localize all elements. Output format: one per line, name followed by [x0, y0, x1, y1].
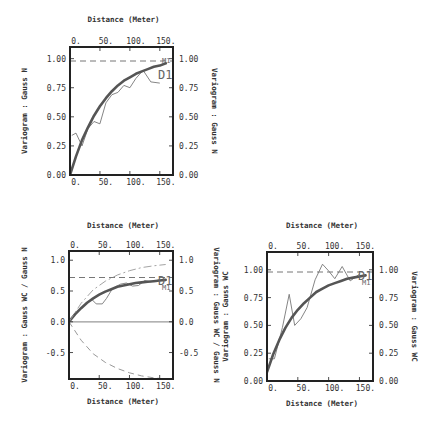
x-tick-label-top: 50. [297, 242, 311, 251]
series-model-m1 [69, 280, 166, 322]
x-axis-title-top: Distance (Meter) [286, 221, 358, 230]
x-axis-title-top: Distance (Meter) [87, 15, 159, 24]
series-model-m1 [267, 275, 366, 372]
x-axis-title-top: Distance (Meter) [87, 221, 159, 230]
y-tick-label-right: 1.0 [179, 256, 194, 265]
x-tick-label-bottom: 0. [70, 382, 80, 391]
x-tick-label-bottom: 50. [98, 382, 112, 391]
chart-panel-gauss-n: 0.0.50.50.100.100.150.150.0.000.000.250.… [20, 15, 219, 187]
x-tick-label-bottom: 150. [156, 382, 175, 391]
x-tick-label-top: 150. [156, 241, 175, 250]
y-tick-label-left: 0.00 [47, 171, 66, 180]
x-tick-label-top: 100. [325, 242, 344, 251]
chart-panel-gauss-wc-n: 0.0.50.50.100.100.150.150.-0.5-0.50.00.0… [20, 221, 221, 406]
label-m1: M1 [162, 57, 170, 65]
chart-panel-gauss-wc: 0.0.50.50.100.100.150.150.0.000.000.250.… [221, 221, 419, 408]
x-tick-label-bottom: 50. [297, 384, 311, 393]
y-tick-label-left: 0.25 [244, 349, 263, 358]
x-tick-label-top: 100. [126, 37, 145, 46]
y-tick-label-right: 0.25 [179, 142, 198, 151]
x-tick-label-bottom: 150. [156, 178, 175, 187]
y-tick-label-right: 0.75 [379, 294, 398, 303]
y-tick-label-right: 0.00 [179, 171, 198, 180]
x-tick-label-bottom: 50. [99, 178, 113, 187]
y-tick-label-right: 0.25 [379, 349, 398, 358]
label-m1: M1 [362, 279, 370, 287]
x-axis-title-bottom: Distance (Meter) [286, 399, 358, 408]
y-tick-label-left: 0.50 [244, 321, 263, 330]
y-axis-title-right: Variogram : Gauss N [210, 68, 219, 154]
x-tick-label-top: 50. [99, 37, 113, 46]
y-tick-label-left: 0.50 [47, 113, 66, 122]
x-tick-label-top: 50. [98, 241, 112, 250]
y-tick-label-right: 1.00 [179, 55, 198, 64]
y-tick-label-right: 0.0 [179, 318, 194, 327]
series-lower-envelope [69, 322, 166, 379]
y-tick-label-left: 0.0 [51, 318, 66, 327]
variogram-charts: 0.0.50.50.100.100.150.150.0.000.000.250.… [0, 0, 438, 428]
y-tick-label-left: 1.00 [47, 55, 66, 64]
y-tick-label-left: 0.5 [51, 287, 66, 296]
x-tick-label-bottom: 0. [268, 384, 278, 393]
plot-frame [69, 251, 173, 379]
x-tick-label-top: 150. [356, 242, 375, 251]
y-tick-label-right: -0.5 [179, 349, 198, 358]
x-tick-label-top: 100. [126, 241, 145, 250]
y-tick-label-right: 0.00 [379, 377, 398, 386]
y-tick-label-right: 0.50 [179, 113, 198, 122]
y-tick-label-right: 0.75 [179, 84, 198, 93]
y-axis-title-right: Variogram : Gauss WC [410, 271, 419, 361]
x-tick-label-top: 0. [71, 37, 81, 46]
x-tick-label-bottom: 0. [71, 178, 81, 187]
x-tick-label-top: 150. [156, 37, 175, 46]
y-tick-label-left: 0.75 [244, 294, 263, 303]
x-tick-label-bottom: 150. [356, 384, 375, 393]
y-tick-label-right: 0.5 [179, 287, 194, 296]
y-axis-title-left: Variogram : Gauss WC / Gauss N [20, 247, 29, 383]
y-tick-label-left: -0.5 [46, 349, 65, 358]
y-tick-label-left: 1.00 [244, 266, 263, 275]
x-axis-title-bottom: Distance (Meter) [87, 397, 159, 406]
x-tick-label-top: 0. [70, 241, 80, 250]
series-upper-envelope [69, 265, 166, 322]
series-model-m1 [70, 63, 166, 175]
y-tick-label-left: 0.25 [47, 142, 66, 151]
series-experimental-cross-variogram-d1 [71, 280, 160, 318]
y-tick-label-left: 0.75 [47, 84, 66, 93]
label-m1: M1 [162, 284, 170, 292]
x-tick-label-bottom: 100. [126, 178, 145, 187]
y-tick-label-right: 0.50 [379, 321, 398, 330]
y-tick-label-left: 1.0 [51, 256, 66, 265]
y-tick-label-left: 0.00 [244, 377, 263, 386]
x-tick-label-top: 0. [268, 242, 278, 251]
x-tick-label-bottom: 100. [325, 384, 344, 393]
label-d1: D1 [158, 68, 172, 82]
y-axis-title-left: Variogram : Gauss WC [221, 271, 230, 361]
x-tick-label-bottom: 100. [126, 382, 145, 391]
y-tick-label-right: 1.00 [379, 266, 398, 275]
y-axis-title-left: Variogram : Gauss N [20, 68, 29, 154]
